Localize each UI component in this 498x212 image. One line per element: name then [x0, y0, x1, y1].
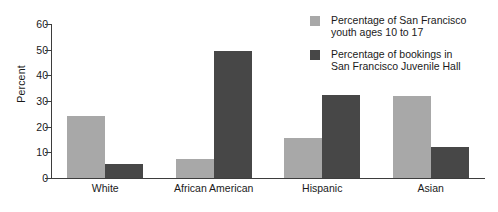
bar-group	[67, 24, 143, 178]
legend-item: Percentage of bookings inSan Francisco J…	[310, 48, 496, 73]
bar	[393, 96, 431, 178]
legend-item: Percentage of San Franciscoyouth ages 10…	[310, 14, 496, 39]
y-axis-tick-label: 50	[20, 44, 48, 55]
x-axis-category-label: White	[92, 182, 119, 194]
legend-label: Percentage of San Franciscoyouth ages 10…	[331, 14, 496, 39]
y-axis-tick-mark	[45, 178, 51, 179]
x-axis-category-labels: WhiteAfrican AmericanHispanicAsian	[51, 182, 485, 202]
legend-label-line: San Francisco Juvenile Hall	[331, 60, 496, 72]
legend-label-line: Percentage of bookings in	[331, 48, 496, 60]
legend-label-line: Percentage of San Francisco	[331, 14, 496, 26]
bar	[214, 51, 252, 178]
x-axis-baseline	[51, 178, 485, 179]
bar	[284, 138, 322, 178]
y-axis-tick-label: 0	[20, 173, 48, 184]
legend-label: Percentage of bookings inSan Francisco J…	[331, 48, 496, 73]
y-axis-tick-mark	[45, 101, 51, 102]
y-axis-tick-mark	[45, 152, 51, 153]
y-axis-tick-mark	[45, 127, 51, 128]
y-axis-tick-labels: 0102030405060	[20, 0, 48, 212]
y-axis-tick-label: 20	[20, 121, 48, 132]
bar	[105, 164, 143, 178]
legend-label-line: youth ages 10 to 17	[331, 26, 496, 38]
bar-group	[176, 24, 252, 178]
bar	[67, 116, 105, 178]
bar	[431, 147, 469, 178]
y-axis-tick-label: 30	[20, 96, 48, 107]
legend: Percentage of San Franciscoyouth ages 10…	[310, 14, 496, 82]
bar-chart: Percent 0102030405060 WhiteAfrican Ameri…	[0, 0, 498, 212]
bar	[176, 159, 214, 178]
y-axis-tick-label: 40	[20, 70, 48, 81]
legend-swatch	[310, 50, 320, 60]
legend-swatch	[310, 16, 320, 26]
y-axis-tick-mark	[45, 24, 51, 25]
x-axis-category-label: Asian	[418, 182, 444, 194]
y-axis-tick-label: 60	[20, 19, 48, 30]
x-axis-category-label: African American	[174, 182, 253, 194]
x-axis-category-label: Hispanic	[302, 182, 342, 194]
y-axis-tick-mark	[45, 75, 51, 76]
y-axis-tick-label: 10	[20, 147, 48, 158]
y-axis-tick-mark	[45, 50, 51, 51]
bar	[322, 95, 360, 178]
